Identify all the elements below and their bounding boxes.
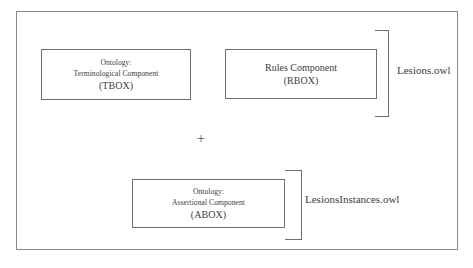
diagram-frame: Ontology: Terminological Component (TBOX… [16, 11, 458, 250]
ontology-structure-diagram: Ontology: Terminological Component (TBOX… [0, 0, 473, 268]
abox-line-1: Ontology: [193, 186, 224, 197]
abox-line-3: (ABOX) [191, 208, 226, 221]
tbox-component-box: Ontology: Terminological Component (TBOX… [41, 49, 191, 100]
rbox-component-box: Rules Component (RBOX) [225, 49, 377, 99]
lesions-instances-owl-label: LesionsInstances.owl [305, 193, 399, 205]
lower-grouping-bracket [285, 170, 302, 240]
abox-line-2: Assertional Component [172, 197, 245, 208]
upper-grouping-bracket [375, 30, 389, 117]
abox-component-box: Ontology: Assertional Component (ABOX) [132, 179, 285, 228]
lesions-owl-label: Lesions.owl [397, 64, 450, 76]
rbox-line-2: (RBOX) [284, 74, 318, 87]
tbox-line-3: (TBOX) [99, 79, 133, 92]
plus-operator: + [195, 131, 207, 147]
tbox-line-2: Terminological Component [74, 68, 159, 79]
rbox-line-1: Rules Component [265, 61, 337, 74]
tbox-line-1: Ontology: [100, 57, 131, 68]
